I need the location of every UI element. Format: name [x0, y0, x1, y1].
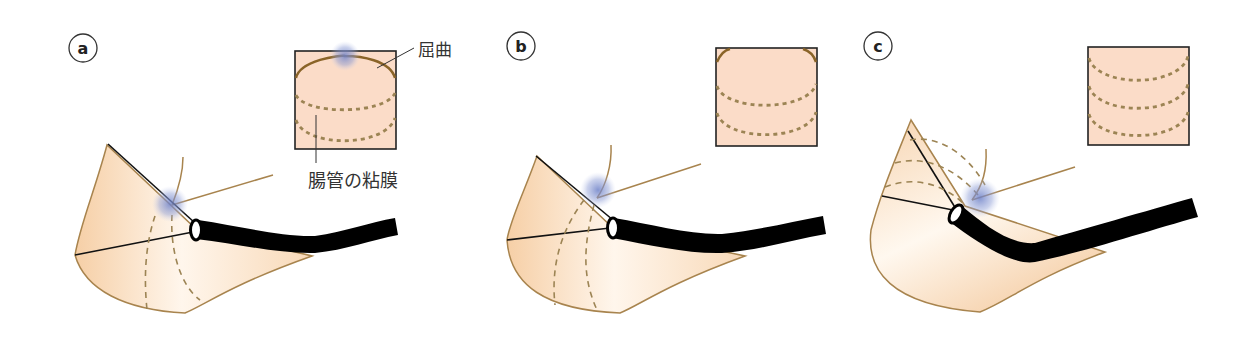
inset-view-a [295, 41, 396, 149]
panel-label-a: a [69, 34, 97, 62]
svg-text:a: a [78, 39, 89, 58]
panel-label-c: c [864, 32, 892, 60]
inset-view-b [716, 48, 817, 146]
scope-tip [191, 220, 202, 240]
contact-glow [152, 186, 188, 222]
scope-tip [608, 218, 619, 238]
inset-view-c [1088, 47, 1189, 145]
panel-c: c [864, 32, 1198, 312]
panel-b: b [507, 32, 826, 313]
panel-label-b: b [507, 32, 535, 60]
svg-text:c: c [873, 37, 882, 56]
svg-text:b: b [515, 37, 526, 56]
annotation-intestinal-mucosa: 腸管の粘膜 [308, 166, 398, 192]
annotation-flexure: 屈曲 [418, 36, 452, 61]
contact-glow [580, 172, 616, 208]
endoscope-flexure-diagram: a b [0, 0, 1251, 344]
